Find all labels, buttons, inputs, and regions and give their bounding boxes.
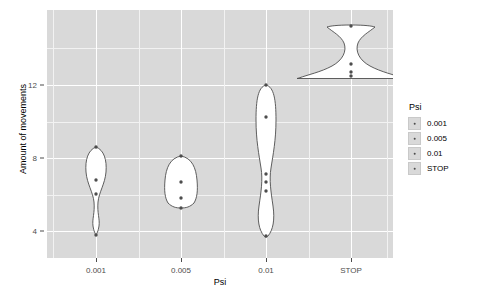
legend-label: STOP <box>427 164 449 173</box>
data-point <box>264 180 267 183</box>
data-point <box>349 70 352 73</box>
data-point <box>264 172 267 175</box>
legend-key-point-icon <box>408 132 421 145</box>
legend: Psi 0.001 0.005 0.01 STOP <box>408 102 476 176</box>
legend-item-stop[interactable]: STOP <box>408 161 476 176</box>
violin-shape-0001 <box>86 147 106 235</box>
data-point <box>94 192 97 195</box>
x-tick-mark-0005 <box>181 258 182 262</box>
data-point <box>349 74 352 77</box>
data-point <box>349 24 352 27</box>
data-point <box>179 180 182 183</box>
legend-key-point-icon <box>408 162 421 175</box>
y-tick-label-4: 4 <box>33 227 37 236</box>
legend-item-001[interactable]: 0.01 <box>408 146 476 161</box>
data-point <box>264 83 267 86</box>
data-point <box>94 233 97 236</box>
y-tick-mark-4 <box>40 231 44 232</box>
data-point <box>349 62 352 65</box>
plot-panel <box>47 10 393 258</box>
x-tick-mark-stop <box>351 258 352 262</box>
data-point <box>94 145 97 148</box>
x-tick-label-0001: 0.001 <box>86 266 106 275</box>
x-tick-mark-0001 <box>96 258 97 262</box>
y-tick-mark-12 <box>40 85 44 86</box>
violin-group-stop <box>297 24 393 78</box>
violin-group-0001 <box>86 145 106 236</box>
legend-key-point-icon <box>408 147 421 160</box>
data-point <box>264 115 267 118</box>
legend-label: 0.005 <box>427 134 447 143</box>
violin-group-001 <box>256 83 276 237</box>
legend-label: 0.001 <box>427 119 447 128</box>
x-tick-label-001: 0.01 <box>258 266 274 275</box>
violin-plot-svg <box>47 10 393 258</box>
legend-title: Psi <box>409 102 476 112</box>
data-point <box>179 206 182 209</box>
y-tick-mark-8 <box>40 158 44 159</box>
legend-key-point-icon <box>408 117 421 130</box>
x-tick-mark-001 <box>266 258 267 262</box>
violin-shape-stop <box>297 25 393 79</box>
x-tick-label-stop: STOP <box>340 266 362 275</box>
x-axis-title: Psi <box>47 277 393 287</box>
violin-group-0005 <box>165 154 198 209</box>
y-tick-label-8: 8 <box>33 154 37 163</box>
x-tick-label-0005: 0.005 <box>171 266 191 275</box>
data-point <box>264 189 267 192</box>
y-tick-label-12: 12 <box>28 81 37 90</box>
chart-root: 12 8 4 0.001 0.005 0.01 STOP Psi Amount … <box>0 0 478 300</box>
data-point <box>94 178 97 181</box>
data-point <box>179 196 182 199</box>
y-axis-title: Amount of movements <box>18 49 28 209</box>
data-point <box>179 154 182 157</box>
data-point <box>264 234 267 237</box>
violin-shape-001 <box>256 85 276 237</box>
legend-label: 0.01 <box>427 149 443 158</box>
legend-item-0005[interactable]: 0.005 <box>408 131 476 146</box>
legend-item-0001[interactable]: 0.001 <box>408 116 476 131</box>
